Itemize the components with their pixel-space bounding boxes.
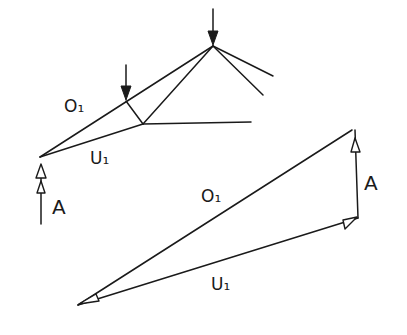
polygon-u1-arrow-icon: [343, 217, 357, 229]
apex-load-arrow-icon: [208, 9, 218, 45]
label-a-polygon: A: [364, 171, 378, 195]
polygon-a-arrow-icon: [351, 138, 360, 152]
truss-sketch: O₁ U₁ A: [36, 9, 273, 224]
upper-chord-right: [213, 46, 273, 76]
diagonal-right: [213, 46, 263, 95]
label-o1-truss: O₁: [64, 96, 84, 116]
force-polygon: O₁ U₁ A: [78, 130, 378, 305]
polygon-o1-arrow-icon: [79, 294, 99, 304]
support-reaction-arrow-icon: [36, 164, 46, 224]
panel-load-arrow-icon: [121, 65, 131, 100]
lower-chord-continuation: [143, 122, 251, 124]
label-a-truss: A: [52, 195, 66, 219]
strut-member: [126, 101, 143, 124]
label-u1-truss: U₁: [90, 148, 109, 168]
truss-diagram: O₁ U₁ A O₁ U₁ A: [0, 0, 407, 335]
label-u1-polygon: U₁: [211, 274, 230, 294]
label-o1-polygon: O₁: [201, 186, 221, 206]
